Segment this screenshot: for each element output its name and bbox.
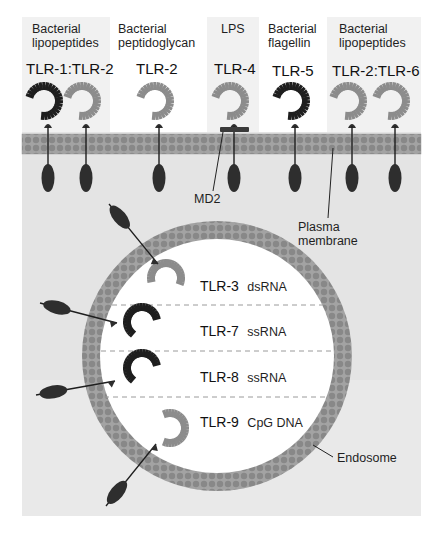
endosome <box>82 221 352 491</box>
tir-domain-icon <box>289 164 302 192</box>
md2-protein <box>220 127 249 132</box>
ligand-label-tlr1-tlr2: Bacterial lipopeptides <box>32 22 99 50</box>
receptor-name-tlr4: TLR-4 <box>214 60 256 77</box>
receptor-tlr5-ectodomain <box>273 82 310 120</box>
tir-domain-icon <box>153 164 166 192</box>
tir-domain-icon <box>42 164 55 192</box>
tir-domain-icon <box>389 164 402 192</box>
tir-domain-icon <box>346 164 359 192</box>
tlr-diagram: Bacterial lipopeptides Bacterial peptido… <box>0 0 438 548</box>
endosomal-label-tlr7: TLR-7 ssRNA <box>200 322 286 340</box>
plasma-membrane <box>22 134 421 154</box>
receptor-name-tlr2-tlr6: TLR-2:TLR-6 <box>332 62 420 79</box>
diagram-artwork <box>0 0 438 548</box>
ligand-label-tlr2-tlr6: Bacterial lipopeptides <box>339 22 406 50</box>
tir-domain-icon <box>80 164 93 192</box>
endosomal-label-tlr9: TLR-9 CpG DNA <box>200 413 303 431</box>
tir-domain-icon <box>228 164 241 192</box>
receptor-name-tlr5: TLR-5 <box>272 62 314 79</box>
ligand-label-tlr2: Bacterial peptidoglycan <box>118 22 195 50</box>
md2-label: MD2 <box>194 192 220 206</box>
receptor-tlr2-ectodomain <box>137 82 174 120</box>
endosomal-label-tlr3: TLR-3 dsRNA <box>200 277 287 295</box>
receptor-name-tlr1-tlr2: TLR-1:TLR-2 <box>26 60 114 77</box>
plasma-membrane-label: Plasma membrane <box>298 220 358 248</box>
ligand-label-tlr5: Bacterial flagellin <box>268 22 317 50</box>
endosome-label: Endosome <box>337 451 397 465</box>
ligand-label-tlr4: LPS <box>221 22 245 36</box>
receptor-name-tlr2: TLR-2 <box>136 60 178 77</box>
endosomal-label-tlr8: TLR-8 ssRNA <box>200 368 286 386</box>
